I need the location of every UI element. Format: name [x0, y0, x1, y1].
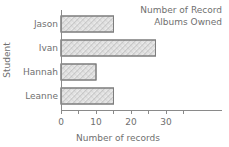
x-tick-label-30: 30 [160, 117, 172, 127]
x-tick-label-0: 0 [58, 117, 64, 127]
y-axis-title: Student [2, 42, 12, 78]
y-category-label-leanne: Leanne [25, 91, 58, 101]
y-category-label-hannah: Hannah [23, 67, 58, 77]
y-category-labels: Jason Ivan Hannah Leanne [23, 19, 58, 101]
bar-hannah-hatch-overlay [61, 64, 96, 80]
x-axis-title: Number of records [76, 133, 160, 143]
chart-title-line-2: Albums Owned [154, 17, 222, 27]
bar-leanne-hatch-overlay [61, 88, 114, 104]
chart-canvas: Number of Record Albums Owned [0, 0, 229, 147]
y-category-label-jason: Jason [33, 19, 58, 29]
bars-group [61, 16, 156, 104]
x-tick-label-10: 10 [90, 117, 102, 127]
bar-chart: Number of Record Albums Owned [0, 0, 229, 147]
bar-jason-hatch-overlay [61, 16, 114, 32]
x-tick-label-20: 20 [125, 117, 137, 127]
chart-title-line-1: Number of Record [140, 5, 222, 15]
x-tick-labels: 0 10 20 30 [58, 117, 172, 127]
bar-ivan-hatch-overlay [61, 40, 156, 56]
x-tick-marks [61, 110, 184, 114]
y-category-label-ivan: Ivan [39, 43, 58, 53]
